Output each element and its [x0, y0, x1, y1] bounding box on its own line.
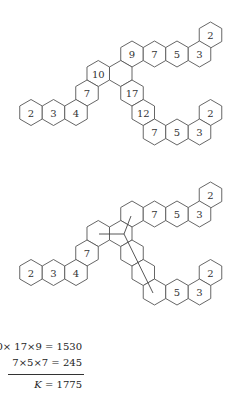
hexagon-label: 2: [207, 268, 213, 279]
result-value: = 1775: [42, 379, 82, 390]
hexagon-label: 3: [50, 108, 56, 119]
hexagon-label: 3: [196, 49, 202, 60]
hexagon-label: 3: [50, 268, 56, 279]
hexagon-label: 5: [174, 49, 180, 60]
hexagon-label: 2: [28, 108, 34, 119]
hexagon-label: 7: [84, 248, 90, 259]
hexagon-label: 5: [174, 127, 180, 138]
hexagon-label: 2: [207, 190, 213, 201]
result-variable: K: [34, 379, 41, 390]
hexagon-label: 3: [196, 127, 202, 138]
equation-line-2: 7×5×7 = 245: [12, 357, 82, 369]
hexagon-label: 7: [84, 88, 90, 99]
hexagon-label: 17: [126, 88, 139, 99]
hexagon-label: 4: [73, 108, 79, 119]
sum-rule: [8, 374, 84, 375]
hexagon-label: 7: [151, 127, 157, 138]
hexagon-label: 10: [92, 69, 105, 80]
hexagon-label: 2: [28, 268, 34, 279]
hexagon-label: 5: [174, 287, 180, 298]
hexagon-label: 3: [196, 209, 202, 220]
hexagon-label: 3: [196, 287, 202, 298]
hexagon-label: 12: [137, 108, 150, 119]
cut-hex-tree-diagram: 27537234253: [20, 182, 222, 305]
hexagon-label: 7: [151, 209, 157, 220]
hexagon-label: 7: [151, 49, 157, 60]
equation-result: K = 1775: [34, 379, 82, 391]
hexagon-label: 2: [207, 108, 213, 119]
hexagon-label: 2: [207, 30, 213, 41]
hexagon-label: 9: [129, 49, 135, 60]
labeled-hex-tree-diagram: 2975310717234122753: [20, 22, 222, 145]
equation-line-1: 10× 17×9 = 1530: [0, 341, 82, 353]
hexagon-label: 5: [174, 209, 180, 220]
hexagon-label: 4: [73, 268, 79, 279]
